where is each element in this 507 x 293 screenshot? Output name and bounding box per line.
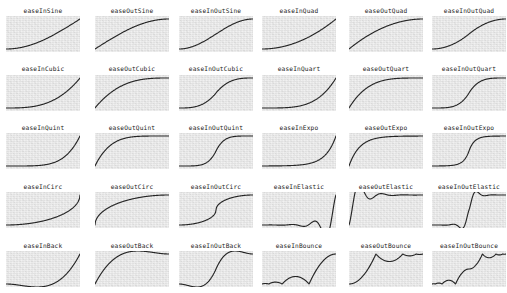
curve-easeInQuad xyxy=(262,19,336,49)
curve-easeInBounce xyxy=(262,254,336,284)
curve-easeInOutExpo xyxy=(432,136,506,166)
curve-easeInSine xyxy=(6,19,80,49)
easing-label-easeOutExpo: easeOutExpo xyxy=(349,124,423,132)
easing-cell-easeOutBack: easeOutBack xyxy=(95,242,169,287)
easing-plot-easeInOutSine xyxy=(179,16,253,52)
easing-cell-easeInOutSine: easeInOutSine xyxy=(179,7,253,52)
easing-curve-svg-easeOutBack xyxy=(95,251,169,287)
easing-label-easeOutQuint: easeOutQuint xyxy=(95,124,169,132)
easing-curve-svg-easeInOutElastic xyxy=(432,192,506,228)
easing-plot-easeOutElastic xyxy=(349,192,423,228)
curve-easeOutExpo xyxy=(349,136,423,166)
easing-plot-easeOutQuart xyxy=(349,75,423,111)
easing-label-easeInCubic: easeInCubic xyxy=(6,65,80,73)
easing-cell-easeInBounce: easeInBounce xyxy=(262,242,336,287)
easing-curve-svg-easeInOutQuart xyxy=(432,75,506,111)
easing-plot-easeOutQuad xyxy=(349,16,423,52)
easing-cell-easeInQuart: easeInQuart xyxy=(262,65,336,110)
easing-curve-svg-easeOutQuart xyxy=(349,75,423,111)
curve-easeInCirc xyxy=(6,195,80,225)
easing-cell-easeInOutCirc: easeInOutCirc xyxy=(179,183,253,228)
easing-label-easeInOutCubic: easeInOutCubic xyxy=(179,65,253,73)
curve-easeOutQuint xyxy=(95,136,169,166)
curve-easeOutQuad xyxy=(349,19,423,49)
curve-easeOutCubic xyxy=(95,78,169,108)
curve-easeInOutElastic xyxy=(432,192,506,228)
curve-easeOutBack xyxy=(95,251,169,284)
easing-label-easeInOutQuart: easeInOutQuart xyxy=(432,65,506,73)
easing-functions-grid: easeInSineeaseOutSineeaseInOutSineeaseIn… xyxy=(0,0,507,293)
easing-curve-svg-easeOutBounce xyxy=(349,251,423,287)
easing-curve-svg-easeInExpo xyxy=(262,133,336,169)
easing-label-easeInOutExpo: easeInOutExpo xyxy=(432,124,506,132)
easing-plot-easeInQuart xyxy=(262,75,336,111)
easing-plot-easeInBack xyxy=(6,251,80,287)
easing-plot-easeInExpo xyxy=(262,133,336,169)
curve-easeInOutBack xyxy=(179,251,253,287)
curve-easeInBack xyxy=(6,254,80,287)
easing-label-easeOutQuad: easeOutQuad xyxy=(349,7,423,15)
easing-plot-easeInOutElastic xyxy=(432,192,506,228)
easing-curve-svg-easeOutSine xyxy=(95,16,169,52)
easing-curve-svg-easeInSine xyxy=(6,16,80,52)
easing-plot-easeOutCubic xyxy=(95,75,169,111)
easing-label-easeInOutBounce: easeInOutBounce xyxy=(432,242,506,250)
easing-plot-easeInOutCubic xyxy=(179,75,253,111)
curve-easeInExpo xyxy=(262,136,336,166)
easing-curve-svg-easeInBounce xyxy=(262,251,336,287)
easing-curve-svg-easeInOutExpo xyxy=(432,133,506,169)
easing-plot-easeOutCirc xyxy=(95,192,169,228)
easing-plot-easeInQuad xyxy=(262,16,336,52)
easing-curve-svg-easeInQuad xyxy=(262,16,336,52)
easing-cell-easeOutQuart: easeOutQuart xyxy=(349,65,423,110)
easing-plot-easeInCubic xyxy=(6,75,80,111)
easing-plot-easeInOutBack xyxy=(179,251,253,287)
easing-cell-easeOutCirc: easeOutCirc xyxy=(95,183,169,228)
easing-cell-easeInCubic: easeInCubic xyxy=(6,65,80,110)
easing-label-easeInQuart: easeInQuart xyxy=(262,65,336,73)
easing-curve-svg-easeInQuart xyxy=(262,75,336,111)
easing-cell-easeInBack: easeInBack xyxy=(6,242,80,287)
easing-cell-easeOutQuad: easeOutQuad xyxy=(349,7,423,52)
curve-easeInOutQuint xyxy=(179,136,253,166)
easing-curve-svg-easeInElastic xyxy=(262,192,336,228)
easing-cell-easeInOutQuad: easeInOutQuad xyxy=(432,7,506,52)
easing-curve-svg-easeInCubic xyxy=(6,75,80,111)
curve-easeInOutCirc xyxy=(179,195,253,225)
easing-label-easeInExpo: easeInExpo xyxy=(262,124,336,132)
easing-curve-svg-easeInOutSine xyxy=(179,16,253,52)
easing-plot-easeInCirc xyxy=(6,192,80,228)
easing-label-easeInBack: easeInBack xyxy=(6,242,80,250)
easing-plot-easeInOutBounce xyxy=(432,251,506,287)
curve-easeInOutCubic xyxy=(179,78,253,108)
easing-cell-easeInOutExpo: easeInOutExpo xyxy=(432,124,506,169)
easing-curve-svg-easeInOutQuint xyxy=(179,133,253,169)
easing-cell-easeInOutQuart: easeInOutQuart xyxy=(432,65,506,110)
easing-curve-svg-easeOutElastic xyxy=(349,192,423,228)
easing-label-easeOutBack: easeOutBack xyxy=(95,242,169,250)
easing-cell-easeInCirc: easeInCirc xyxy=(6,183,80,228)
curve-easeInOutQuart xyxy=(432,78,506,108)
easing-cell-easeInOutBack: easeInOutBack xyxy=(179,242,253,287)
easing-plot-easeInOutCirc xyxy=(179,192,253,228)
easing-cell-easeOutQuint: easeOutQuint xyxy=(95,124,169,169)
easing-curve-svg-easeInOutBack xyxy=(179,251,253,287)
easing-curve-svg-easeOutExpo xyxy=(349,133,423,169)
easing-cell-easeInOutBounce: easeInOutBounce xyxy=(432,242,506,287)
easing-plot-easeInElastic xyxy=(262,192,336,228)
easing-cell-easeInExpo: easeInExpo xyxy=(262,124,336,169)
curve-easeInElastic xyxy=(262,195,336,228)
easing-label-easeInOutSine: easeInOutSine xyxy=(179,7,253,15)
curve-easeInQuart xyxy=(262,78,336,108)
easing-label-easeInOutQuint: easeInOutQuint xyxy=(179,124,253,132)
easing-label-easeInOutQuad: easeInOutQuad xyxy=(432,7,506,15)
easing-label-easeInOutElastic: easeInOutElastic xyxy=(432,183,506,191)
easing-curve-svg-easeOutQuint xyxy=(95,133,169,169)
easing-plot-easeOutBounce xyxy=(349,251,423,287)
easing-cell-easeInElastic: easeInElastic xyxy=(262,183,336,228)
easing-plot-easeOutBack xyxy=(95,251,169,287)
easing-curve-svg-easeInOutCirc xyxy=(179,192,253,228)
easing-cell-easeOutExpo: easeOutExpo xyxy=(349,124,423,169)
easing-curve-svg-easeOutCubic xyxy=(95,75,169,111)
easing-label-easeInOutBack: easeInOutBack xyxy=(179,242,253,250)
